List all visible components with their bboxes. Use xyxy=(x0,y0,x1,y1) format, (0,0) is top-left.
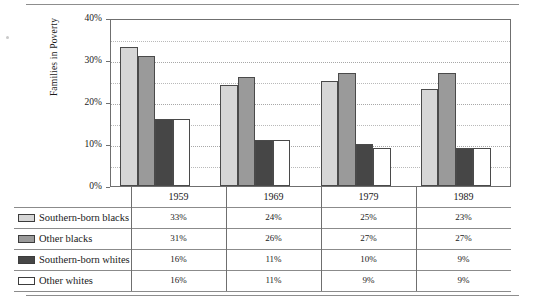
table-cell-value: 27% xyxy=(416,228,511,249)
bar-1979-other-blacks xyxy=(338,73,356,186)
table-cell-value: 9% xyxy=(321,270,416,291)
bar-1959-other-whites xyxy=(173,119,191,186)
legend-label: Southern-born whites xyxy=(39,254,130,265)
legend-entry-southern-born-blacks[interactable]: Southern-born blacks xyxy=(18,207,129,228)
bar-group-1969 xyxy=(211,20,311,186)
table-cell-value: 27% xyxy=(321,228,416,249)
legend-label: Other blacks xyxy=(39,233,92,244)
table-cell-value: 11% xyxy=(226,270,321,291)
bar-group-1979 xyxy=(312,20,412,186)
table-year-header-1969: 1969 xyxy=(226,187,321,206)
table-bottom-rule xyxy=(14,291,511,292)
table-cell-value: 16% xyxy=(131,249,226,270)
legend-swatch-icon xyxy=(18,277,35,285)
plot-area xyxy=(110,19,511,187)
table-cell-value: 9% xyxy=(416,270,511,291)
legend-swatch-icon xyxy=(18,235,35,243)
legend-label: Southern-born blacks xyxy=(39,212,129,223)
bar-1979-southern-born-blacks xyxy=(321,81,339,186)
table-cell-value: 10% xyxy=(321,249,416,270)
bar-1969-southern-born-whites xyxy=(255,140,273,186)
bar-1989-southern-born-blacks xyxy=(421,89,439,186)
table-cell-value: 31% xyxy=(131,228,226,249)
bar-1959-other-blacks xyxy=(138,56,156,186)
table-cell-value: 24% xyxy=(226,207,321,228)
bar-1979-other-whites xyxy=(373,148,391,186)
table-year-header-1989: 1989 xyxy=(416,187,511,206)
legend-entry-southern-born-whites[interactable]: Southern-born whites xyxy=(18,249,130,270)
legend-swatch-icon xyxy=(18,256,35,264)
legend-entry-other-blacks[interactable]: Other blacks xyxy=(18,228,92,249)
bar-1989-southern-born-whites xyxy=(456,148,474,186)
bar-group-1989 xyxy=(412,20,512,186)
bar-group-1959 xyxy=(111,20,211,186)
table-cell-value: 23% xyxy=(416,207,511,228)
legend-swatch-icon xyxy=(18,214,35,222)
bar-1959-southern-born-blacks xyxy=(120,47,138,186)
y-axis-tick-label: 30% xyxy=(62,55,102,65)
table-cell-value: 33% xyxy=(131,207,226,228)
table-column-divider xyxy=(416,187,417,291)
y-axis-tick-label: 20% xyxy=(62,97,102,107)
bar-1989-other-blacks xyxy=(438,73,456,186)
bar-1959-southern-born-whites xyxy=(155,119,173,186)
bar-1969-other-blacks xyxy=(238,77,256,186)
table-cell-value: 9% xyxy=(416,249,511,270)
bar-series-container xyxy=(111,20,510,186)
table-year-header-1959: 1959 xyxy=(131,187,226,206)
legend-label: Other whites xyxy=(39,275,93,286)
bar-1989-other-whites xyxy=(473,148,491,186)
bar-1969-other-whites xyxy=(273,140,291,186)
table-cell-value: 25% xyxy=(321,207,416,228)
poverty-bar-chart-figure: Families in Poverty 0%10%20%30%40% 19591… xyxy=(0,0,533,305)
table-column-divider xyxy=(321,187,322,291)
y-axis-title: Families in Poverty xyxy=(49,0,59,117)
legend-data-table: 1959196919791989Southern-born blacks33%2… xyxy=(14,187,511,291)
legend-entry-other-whites[interactable]: Other whites xyxy=(18,270,93,291)
table-column-divider xyxy=(226,187,227,291)
table-cell-value: 11% xyxy=(226,249,321,270)
y-axis-tick-label: 40% xyxy=(62,13,102,23)
table-cell-value: 26% xyxy=(226,228,321,249)
table-legend-divider xyxy=(131,187,132,291)
table-year-header-1979: 1979 xyxy=(321,187,416,206)
y-axis-tick-label: 10% xyxy=(62,139,102,149)
bar-1969-southern-born-blacks xyxy=(220,85,238,186)
table-cell-value: 16% xyxy=(131,270,226,291)
bar-1979-southern-born-whites xyxy=(356,144,374,186)
